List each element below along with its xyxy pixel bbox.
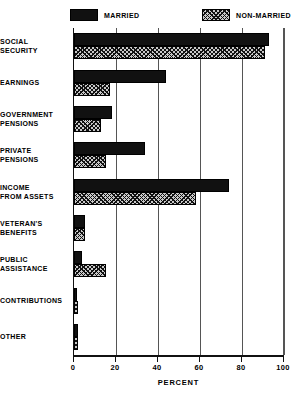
- bar-non-married: [74, 264, 106, 277]
- x-axis-tick-label: 80: [229, 363, 253, 372]
- bar-non-married: [74, 228, 85, 241]
- legend-entry-married: MARRIED: [70, 8, 139, 22]
- category-label: OTHER: [0, 332, 66, 341]
- bar-chart: MARRIED NON-MARRIED PERCENT 020406080100…: [0, 0, 298, 409]
- x-axis-tick: [73, 357, 74, 362]
- bar-group: [74, 70, 283, 96]
- bar-group: [74, 215, 283, 241]
- x-axis-tick: [241, 357, 242, 362]
- bar-non-married: [74, 337, 78, 350]
- x-axis-tick-label: 40: [145, 363, 169, 372]
- chart-legend: MARRIED NON-MARRIED: [70, 8, 295, 24]
- category-label: GOVERNMENT PENSIONS: [0, 110, 66, 128]
- x-axis-tick: [157, 357, 158, 362]
- category-label: SOCIAL SECURITY: [0, 37, 66, 55]
- bar-non-married: [74, 301, 78, 314]
- bar-group: [74, 179, 283, 205]
- bar-non-married: [74, 46, 265, 59]
- bar-married: [74, 215, 85, 228]
- plot-area: [73, 28, 283, 355]
- bar-married: [74, 106, 112, 119]
- category-label: PUBLIC ASSISTANCE: [0, 255, 66, 273]
- x-axis-line: [73, 355, 284, 357]
- bar-married: [74, 179, 229, 192]
- bar-group: [74, 142, 283, 168]
- x-axis-tick-label: 20: [103, 363, 127, 372]
- category-label: PRIVATE PENSIONS: [0, 146, 66, 164]
- legend-swatch-non-married: [202, 9, 230, 21]
- x-axis-tick-label: 0: [61, 363, 85, 372]
- category-label: VETERAN'S BENEFITS: [0, 219, 66, 237]
- bar-non-married: [74, 83, 110, 96]
- bar-non-married: [74, 155, 106, 168]
- bar-group: [74, 288, 283, 314]
- bar-group: [74, 33, 283, 59]
- bar-married: [74, 324, 78, 337]
- x-axis-tick: [115, 357, 116, 362]
- category-label: CONTRIBUTIONS: [0, 296, 66, 305]
- bar-married: [74, 33, 269, 46]
- bar-married: [74, 251, 82, 264]
- gridline: [284, 28, 285, 355]
- bar-non-married: [74, 192, 196, 205]
- bar-group: [74, 324, 283, 350]
- x-axis-title: PERCENT: [73, 378, 284, 387]
- bar-married: [74, 142, 145, 155]
- category-label: INCOME FROM ASSETS: [0, 183, 66, 201]
- legend-entry-non-married: NON-MARRIED: [202, 8, 291, 22]
- bar-group: [74, 251, 283, 277]
- x-axis-tick: [199, 357, 200, 362]
- x-axis-tick-label: 60: [187, 363, 211, 372]
- x-axis-tick: [283, 357, 284, 362]
- x-axis-tick-label: 100: [271, 363, 295, 372]
- bar-married: [74, 70, 166, 83]
- bar-group: [74, 106, 283, 132]
- category-label: EARNINGS: [0, 78, 66, 87]
- legend-label-married: MARRIED: [104, 12, 139, 19]
- legend-label-non-married: NON-MARRIED: [236, 12, 291, 19]
- legend-swatch-married: [70, 9, 98, 21]
- bar-non-married: [74, 119, 101, 132]
- bar-married: [74, 288, 77, 301]
